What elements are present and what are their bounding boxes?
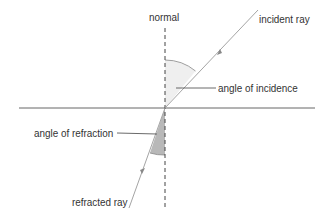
refracted-ray-arrow-icon bbox=[140, 168, 145, 174]
refracted-ray-label: refracted ray bbox=[72, 196, 128, 208]
angle-of-incidence-label: angle of incidence bbox=[218, 82, 298, 94]
refraction-diagram: normal incident ray angle of incidence a… bbox=[0, 0, 329, 222]
angle-of-refraction-leader bbox=[117, 133, 157, 134]
refracted-ray bbox=[129, 108, 165, 208]
normal-label: normal bbox=[149, 11, 179, 23]
diagram-graphics bbox=[0, 0, 329, 222]
incident-ray-label: incident ray bbox=[259, 13, 310, 25]
angle-of-refraction-label: angle of refraction bbox=[34, 127, 113, 139]
